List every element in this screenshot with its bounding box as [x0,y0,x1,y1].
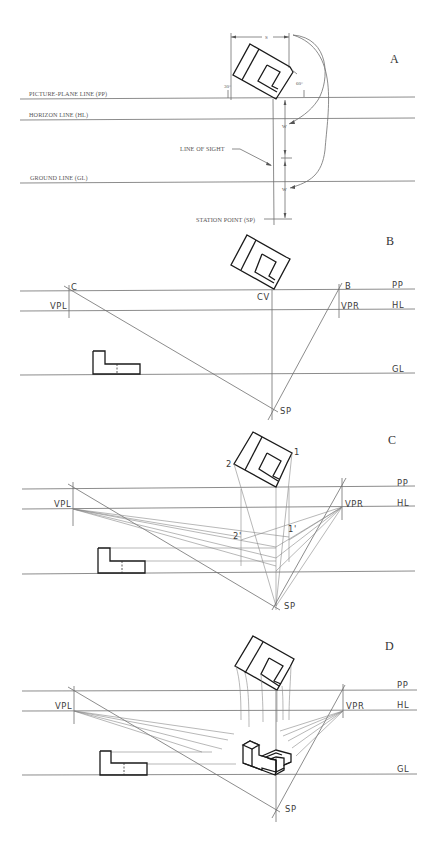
angle-30-label: 30° [224,84,231,89]
point-1-prime-label: 1' [288,524,297,534]
arrowhead [289,120,295,124]
ground-line [22,774,417,775]
hl-label: HL [397,700,409,710]
panel-label-d: D [385,639,394,653]
transfer-arc-1 [289,35,325,124]
b-label: B [345,281,351,291]
width-dimension-label: S [265,35,268,40]
leader [240,149,271,165]
perspective-construction-figure: A PICTURE-PLANE LINE (PP) HORIZON LINE (… [0,0,441,853]
panel-c: C PP HL 2 1 VPL VPR [22,432,415,611]
arrowhead [284,161,287,166]
point-1-label: 1 [294,447,300,457]
arrowhead [231,36,236,39]
gl-label: GL [392,364,404,374]
arrowhead [284,36,289,39]
vpr-label: VPR [341,301,359,311]
picture-plane-line [22,486,415,489]
vpl-label: VPL [50,301,67,311]
arrowhead [284,100,287,105]
gl-line-label: GROUND LINE (GL) [30,174,88,182]
sp-label: SP [280,406,292,416]
vpl-fan [74,711,234,752]
hl-label: HL [392,300,404,310]
ground-line [20,373,415,375]
elevation-view [98,548,145,573]
line-of-sight-label: LINE OF SIGHT [180,145,225,152]
vpl-label: VPL [55,701,72,711]
elevation-view [93,351,140,374]
vpl-label: VPL [54,499,71,509]
vpl-fan [73,509,289,566]
distance-label-w2: W [282,187,287,192]
horizon-line [20,118,415,120]
arrowhead [284,150,287,155]
arrowhead [290,185,295,189]
panel-label-c: C [388,433,396,447]
hl-line-label: HORIZON LINE (HL) [29,111,88,119]
plan-view [234,432,292,487]
sp-label: SP [284,601,296,611]
vpr-label: VPR [345,499,363,509]
pp-label: PP [392,280,403,290]
picture-plane-line [22,690,417,691]
arrowhead [284,213,287,218]
perspective-object [243,741,291,775]
station-point-label: STATION POINT (SP) [196,216,255,224]
plan-view [233,44,293,99]
sight-line-right [272,478,346,610]
panel-d: D PP HL GL VPL VPR [22,636,417,822]
sight-line-left [68,484,280,610]
sight-line-left [64,286,278,412]
ground-line [20,181,415,183]
picture-plane-line [20,97,415,99]
panel-a: A PICTURE-PLANE LINE (PP) HORIZON LINE (… [20,33,415,225]
vpr-fan [241,507,342,606]
cv-label: CV [257,292,270,302]
plan-view [235,636,294,690]
sp-label: SP [285,804,297,814]
plan-view [231,235,290,289]
elevation-view [100,751,147,775]
arrowhead [266,162,272,166]
point-2-prime-label: 2' [233,531,242,541]
gl-label: GL [397,764,409,774]
sight-line-right [268,283,342,420]
panel-label-b: B [386,234,394,248]
pp-label: PP [397,680,408,690]
line-of-sight [273,99,274,225]
vpr-fan [280,711,343,756]
hl-label: HL [397,498,409,508]
panel-b: B PP HL GL CV VPL VPR C B SP [20,234,415,420]
distance-label-w1: W [282,124,287,129]
angle-60-label: 60° [296,81,303,86]
pp-label: PP [397,478,408,488]
vpr-label: VPR [346,701,364,711]
panel-label-a: A [390,52,399,66]
picture-plane-line [20,289,415,291]
point-2-label: 2 [226,459,232,469]
pp-line-label: PICTURE-PLANE LINE (PP) [29,90,107,98]
